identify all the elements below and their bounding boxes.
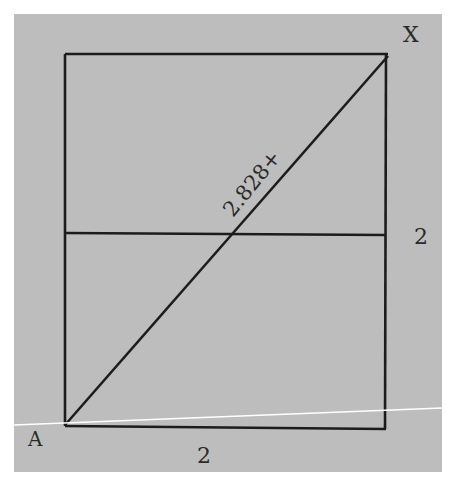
side-label-bottom: 2 xyxy=(197,443,211,468)
diagram-canvas: X A 2 2 2.828+ xyxy=(0,0,460,494)
right-edge xyxy=(385,54,386,429)
gray-panel xyxy=(14,14,442,472)
point-label-a: A xyxy=(27,427,43,451)
point-label-x: X xyxy=(403,22,419,47)
side-label-right: 2 xyxy=(414,224,428,249)
